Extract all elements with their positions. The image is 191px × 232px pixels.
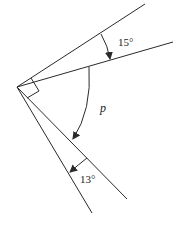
ray-4: [17, 87, 92, 213]
angle-label-13: 13°: [80, 173, 95, 185]
ray-2: [17, 42, 173, 87]
angle-label-p: p: [99, 101, 106, 115]
angle-arrow-13: [70, 158, 87, 172]
angle-arrow-15: [101, 34, 110, 59]
ray-3: [17, 87, 127, 199]
angle-diagram: 15° p 13°: [0, 0, 191, 232]
angle-arrow-p: [73, 67, 89, 139]
angle-label-15: 15°: [118, 36, 133, 48]
